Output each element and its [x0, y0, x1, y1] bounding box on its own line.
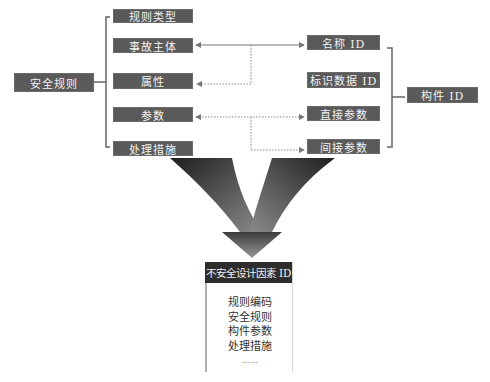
node-rule-type: 规则类型	[113, 9, 193, 23]
node-label: 安全规则	[30, 75, 78, 91]
node-label: 标识数据 ID	[310, 72, 378, 88]
node-label: 参数	[141, 107, 165, 123]
node-identity-data-id: 标识数据 ID	[307, 72, 380, 88]
node-treatment: 处理措施	[113, 141, 193, 156]
result-card-title: 不安全设计因素 ID	[205, 262, 292, 283]
node-component-id: 构件 ID	[407, 87, 478, 103]
node-parameter: 参数	[113, 107, 193, 122]
node-indirect-parameter: 间接参数	[307, 139, 380, 154]
node-accident-subject: 事故主体	[113, 38, 193, 53]
merge-arrow-right	[250, 158, 335, 232]
result-card-body: 规则编码 安全规则 构件参数 处理措施 ……	[207, 296, 292, 369]
merge-arrow-left	[170, 158, 262, 232]
root-node-safety-rules: 安全规则	[14, 73, 94, 92]
merge-arrow-head	[222, 232, 282, 258]
result-line: 安全规则	[207, 311, 292, 326]
node-label: 规则类型	[129, 8, 177, 24]
result-line: 构件参数	[207, 325, 292, 340]
node-label: 处理措施	[129, 141, 177, 157]
node-name-id: 名称 ID	[307, 35, 380, 50]
node-label: 事故主体	[129, 38, 177, 54]
result-line: 处理措施	[207, 340, 292, 355]
node-label: 直接参数	[320, 106, 368, 122]
result-line: 规则编码	[207, 296, 292, 311]
node-label: 构件 ID	[421, 87, 465, 103]
node-label: 属性	[141, 73, 165, 89]
node-attribute: 属性	[113, 73, 193, 89]
node-label: 间接参数	[320, 139, 368, 155]
result-line: ……	[207, 354, 292, 369]
node-direct-parameter: 直接参数	[307, 106, 380, 121]
node-label: 名称 ID	[322, 35, 366, 51]
